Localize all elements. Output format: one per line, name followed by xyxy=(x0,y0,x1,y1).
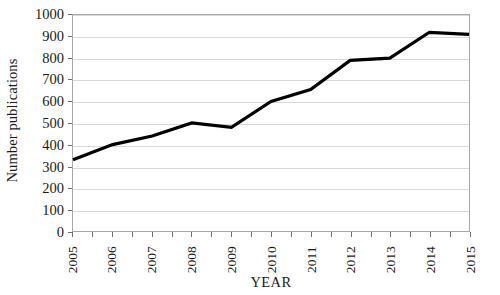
x-axis-tick-mark-minor xyxy=(331,232,332,237)
y-axis-tick-label: 500 xyxy=(42,116,64,131)
x-axis-tick-mark xyxy=(271,232,272,237)
x-axis-tick-label-text: 2009 xyxy=(224,246,238,273)
x-axis-tick-label-text: 2015 xyxy=(463,246,477,273)
y-axis-tick-label: 200 xyxy=(42,181,64,196)
x-axis-tick-label-text: 2013 xyxy=(384,246,398,273)
x-axis-tick-mark xyxy=(351,232,352,237)
x-axis-tick-mark xyxy=(470,232,471,237)
y-axis-tick-labels: 01002003004005006007008009001000 xyxy=(22,14,68,232)
x-axis-tick-marks xyxy=(72,232,470,238)
y-axis-tick-label: 800 xyxy=(42,50,64,65)
x-axis-tick-mark xyxy=(152,232,153,237)
x-axis-tick-mark-minor xyxy=(450,232,451,237)
x-axis-tick-label-text: 2010 xyxy=(264,246,278,273)
x-axis-tick-label-text: 2007 xyxy=(145,246,159,273)
x-axis-tick-label-text: 2005 xyxy=(65,246,79,273)
y-axis-tick-label: 1000 xyxy=(35,7,64,22)
x-axis-tick-mark xyxy=(311,232,312,237)
x-axis-tick-mark-minor xyxy=(410,232,411,237)
x-axis-tick-mark-minor xyxy=(172,232,173,237)
x-axis-tick-mark-minor xyxy=(291,232,292,237)
plot-area xyxy=(72,14,470,232)
publications-per-year-line-chart: Number publications 01002003004005006007… xyxy=(0,0,500,295)
y-axis-tick-label: 0 xyxy=(57,225,64,240)
x-axis-tick-label-text: 2012 xyxy=(344,246,358,273)
x-axis-tick-label-text: 2014 xyxy=(423,246,437,273)
y-axis-title-text: Number publications xyxy=(5,58,22,182)
y-axis-tick-label: 600 xyxy=(42,94,64,109)
x-axis-tick-mark xyxy=(430,232,431,237)
x-axis-title: YEAR xyxy=(72,274,470,291)
x-axis-tick-mark xyxy=(112,232,113,237)
x-axis-tick-mark xyxy=(390,232,391,237)
x-axis-tick-mark-minor xyxy=(251,232,252,237)
x-axis-tick-label-text: 2008 xyxy=(185,246,199,273)
x-axis-tick-mark-minor xyxy=(371,232,372,237)
y-axis-tick-label: 300 xyxy=(42,159,64,174)
x-axis-tick-mark-minor xyxy=(211,232,212,237)
x-axis-tick-mark-minor xyxy=(132,232,133,237)
x-axis-tick-mark xyxy=(191,232,192,237)
y-axis-tick-label: 100 xyxy=(42,203,64,218)
y-axis-tick-label: 400 xyxy=(42,138,64,153)
x-axis-tick-mark xyxy=(231,232,232,237)
x-axis-tick-mark-minor xyxy=(92,232,93,237)
y-axis-tick-label: 700 xyxy=(42,72,64,87)
series-line-publications xyxy=(73,15,469,231)
x-axis-tick-mark xyxy=(72,232,73,237)
x-axis-tick-label-text: 2006 xyxy=(105,246,119,273)
y-axis-tick-label: 900 xyxy=(42,29,64,44)
x-axis-tick-label-text: 2011 xyxy=(304,247,318,274)
